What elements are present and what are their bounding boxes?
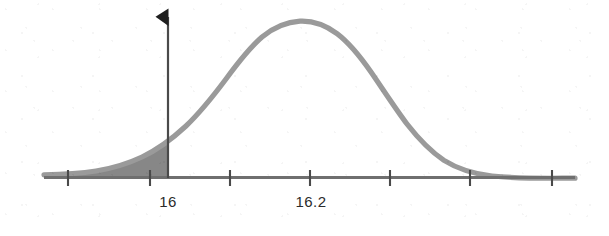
bell-curve (44, 21, 575, 178)
x-tick-label-16: 16 (159, 193, 177, 210)
x-tick-label-16-2: 16.2 (295, 193, 326, 210)
left-arrow-icon (156, 9, 169, 27)
